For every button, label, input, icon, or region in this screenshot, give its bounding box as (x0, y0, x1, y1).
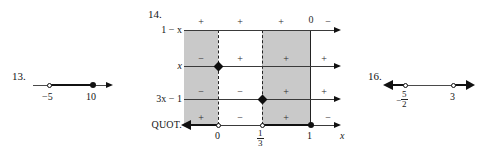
arrow-left-icon (383, 80, 393, 90)
sign-r2-c3: + (277, 53, 295, 64)
sign-r2-c2: + (231, 53, 249, 64)
sign-r1-c3: + (272, 16, 290, 27)
number-line-13-bold-segment (50, 84, 93, 86)
quot-marker-filled-1 (308, 122, 314, 128)
sign-r3-c1: − (192, 86, 210, 97)
point-marker-open-13 (47, 83, 52, 88)
problem-14-number: 14. (148, 8, 162, 20)
arrow-right-icon (334, 63, 341, 69)
tick-label-16-neg-five-halves: − 5 2 (396, 90, 408, 109)
sign-r1-c4: − (319, 16, 337, 27)
problem-16-number: 16. (368, 70, 382, 82)
sign-r4-c3: + (277, 112, 295, 123)
row-label-quot: QUOT. (141, 119, 182, 130)
row-label-2: x (152, 60, 182, 71)
boundary-line-one-third (262, 30, 263, 125)
point-marker-open-16-b (451, 83, 456, 88)
axis-label-x: x (340, 130, 344, 141)
fraction-one-third: 1 3 (257, 129, 264, 148)
row-axis-2 (184, 66, 336, 67)
worksheet-canvas: 13. −5 10 14. 1 − x + + + 0 − (0, 0, 487, 164)
tick-label-13-1: 10 (86, 91, 96, 102)
tick-label-14-one-third: 1 3 (257, 129, 264, 148)
sign-r2-c4: + (315, 53, 333, 64)
sign-r1-c2: + (231, 16, 249, 27)
sign-r4-c2: − (231, 112, 249, 123)
sign-r1-c1: + (192, 16, 210, 27)
sign-r2-c1: − (192, 53, 210, 64)
fraction-denominator: 2 (401, 99, 408, 109)
shaded-band-middle (262, 30, 310, 125)
point-marker-open-16-a (403, 83, 408, 88)
tick-label-16-3: 3 (450, 91, 455, 102)
row-label-2-text: x (178, 60, 182, 71)
fraction-denominator: 3 (257, 138, 264, 148)
fraction-five-halves: 5 2 (401, 90, 408, 109)
row-label-3: 3x − 1 (146, 93, 182, 104)
solution-segment-middle (262, 124, 311, 126)
number-line-16-middle (406, 85, 454, 86)
tick-label-14-1: 1 (307, 130, 312, 141)
row-label-1: 1 − x (152, 24, 182, 35)
row-axis-1 (184, 30, 336, 31)
sign-r3-c3: + (277, 86, 295, 97)
boundary-line-1 (310, 30, 311, 125)
solution-ray-left (190, 124, 219, 126)
point-marker-filled-13 (90, 82, 96, 88)
sign-r1-zero: 0 (302, 14, 320, 25)
fraction-numerator: 5 (401, 90, 408, 99)
shaded-band-left (184, 30, 218, 125)
sign-r4-c1: + (192, 112, 210, 123)
tick-label-14-0: 0 (215, 130, 220, 141)
arrow-right-icon (106, 82, 113, 88)
problem-13-number: 13. (12, 70, 26, 82)
arrow-left-icon (181, 120, 191, 130)
tick-label-13-0: −5 (42, 91, 53, 102)
quot-marker-open-0 (216, 123, 221, 128)
arrow-right-icon (466, 80, 475, 90)
sign-r4-c4: − (319, 112, 337, 123)
fraction-numerator: 1 (257, 129, 264, 138)
sign-r3-c4: + (315, 86, 333, 97)
quot-marker-open-one-third (260, 123, 265, 128)
arrow-right-icon (334, 96, 341, 102)
arrow-right-icon (334, 27, 341, 33)
boundary-line-0 (218, 30, 219, 125)
sign-r3-c2: − (231, 86, 249, 97)
